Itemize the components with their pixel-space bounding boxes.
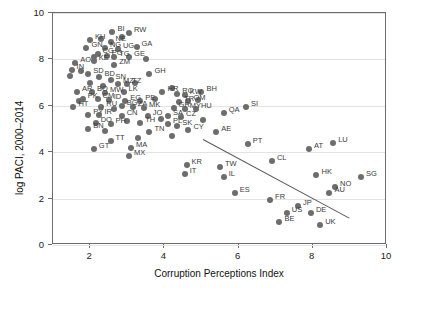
data-point-label: GE	[134, 49, 145, 58]
data-point-label: IL	[229, 168, 235, 177]
x-tick-label: 10	[376, 250, 396, 261]
data-point-label: HK	[321, 167, 331, 176]
data-point	[313, 172, 319, 178]
data-point-label: SK	[182, 117, 192, 126]
data-point	[221, 174, 227, 180]
data-point-label: AE	[221, 124, 231, 133]
x-tick-label: 2	[79, 250, 99, 261]
data-point	[146, 71, 152, 77]
data-point	[330, 140, 336, 146]
y-tick-label: 0	[24, 239, 44, 250]
data-point	[269, 158, 275, 164]
data-point-label: SI	[251, 98, 258, 107]
data-point-label: TW	[225, 159, 237, 168]
y-tick-mark	[48, 244, 52, 245]
data-point-label: TH	[145, 115, 155, 124]
scatter-chart: log PACI, 2000–2014 0246810 246810 KHBIR…	[0, 0, 424, 314]
data-point	[85, 112, 91, 118]
data-point-label: CL	[277, 153, 287, 162]
data-point	[109, 29, 115, 35]
y-tick-label: 6	[24, 99, 44, 110]
data-point-label: RW	[134, 24, 146, 33]
data-point	[67, 73, 73, 79]
data-point-label: PK	[88, 90, 98, 99]
data-point	[126, 30, 132, 36]
x-axis-title: Corruption Perceptions Index	[52, 268, 386, 279]
data-point	[85, 126, 91, 132]
data-point	[70, 104, 76, 110]
data-point-label: CN	[127, 108, 138, 117]
data-point-label: TT	[116, 132, 125, 141]
data-point-label: LK	[129, 83, 138, 92]
data-point	[232, 190, 238, 196]
data-point	[128, 145, 134, 151]
data-point	[169, 133, 175, 139]
data-point	[185, 127, 191, 133]
data-point-label: PT	[253, 136, 263, 145]
data-point	[83, 45, 89, 51]
data-point	[159, 89, 165, 95]
data-point-label: MX	[134, 147, 145, 156]
data-point-label: BI	[117, 23, 124, 32]
data-point	[91, 54, 97, 60]
data-point-label: TN	[154, 124, 164, 133]
data-point	[213, 129, 219, 135]
data-point-label: BN	[93, 121, 103, 130]
data-point-label: BD	[104, 68, 114, 77]
data-point	[184, 162, 190, 168]
data-point-label: BG	[127, 97, 138, 106]
data-point-label: CY	[193, 122, 203, 131]
y-tick-label: 8	[24, 53, 44, 64]
data-point-label: LU	[338, 134, 348, 143]
y-tick-label: 4	[24, 146, 44, 157]
x-tick-label: 8	[302, 250, 322, 261]
data-point-label: IN	[77, 61, 85, 70]
data-point	[221, 110, 227, 116]
x-tick-label: 4	[153, 250, 173, 261]
data-point-label: GT	[99, 140, 109, 149]
data-point-label: GH	[154, 66, 165, 75]
data-point	[119, 103, 125, 109]
data-point-label: UK	[325, 217, 335, 226]
gridline	[53, 13, 385, 14]
data-point-label: AT	[314, 140, 323, 149]
data-point	[137, 120, 143, 126]
data-point	[358, 174, 364, 180]
gridline	[53, 152, 385, 153]
data-point	[91, 146, 97, 152]
plot-area: KHBIRWGNNENGUGGACGPGTGGEAOKEZMINSDBDSNGH…	[52, 12, 386, 244]
data-point	[276, 219, 282, 225]
data-point-label: KR	[192, 156, 202, 165]
data-point	[111, 62, 117, 68]
data-point	[85, 71, 91, 77]
data-point-label: IT	[190, 166, 197, 175]
data-point-label: BE	[284, 213, 294, 222]
data-point	[326, 190, 332, 196]
data-point	[217, 164, 223, 170]
data-point	[245, 141, 251, 147]
data-point	[74, 89, 80, 95]
data-point	[146, 129, 152, 135]
data-point	[308, 210, 314, 216]
data-point-label: KE	[99, 52, 109, 61]
data-point-label: FR	[275, 191, 285, 200]
data-point	[165, 113, 171, 119]
gridline	[53, 199, 385, 200]
data-point-label: SG	[366, 168, 377, 177]
data-point	[165, 121, 171, 127]
data-point-label: ZM	[119, 57, 130, 66]
data-point-label: HR	[167, 83, 178, 92]
data-point	[317, 222, 323, 228]
data-point-label: GN	[91, 39, 102, 48]
data-point-label: PH	[116, 116, 126, 125]
x-tick-label: 6	[228, 250, 248, 261]
gridline	[53, 245, 385, 246]
x-tick-mark	[386, 244, 387, 248]
data-point-label: QA	[229, 104, 240, 113]
data-point-label: HU	[201, 101, 212, 110]
y-tick-label: 10	[24, 7, 44, 18]
data-point-label: US	[292, 204, 302, 213]
data-point	[126, 153, 132, 159]
data-point-label: SD	[93, 66, 103, 75]
data-point-label: ES	[240, 184, 250, 193]
